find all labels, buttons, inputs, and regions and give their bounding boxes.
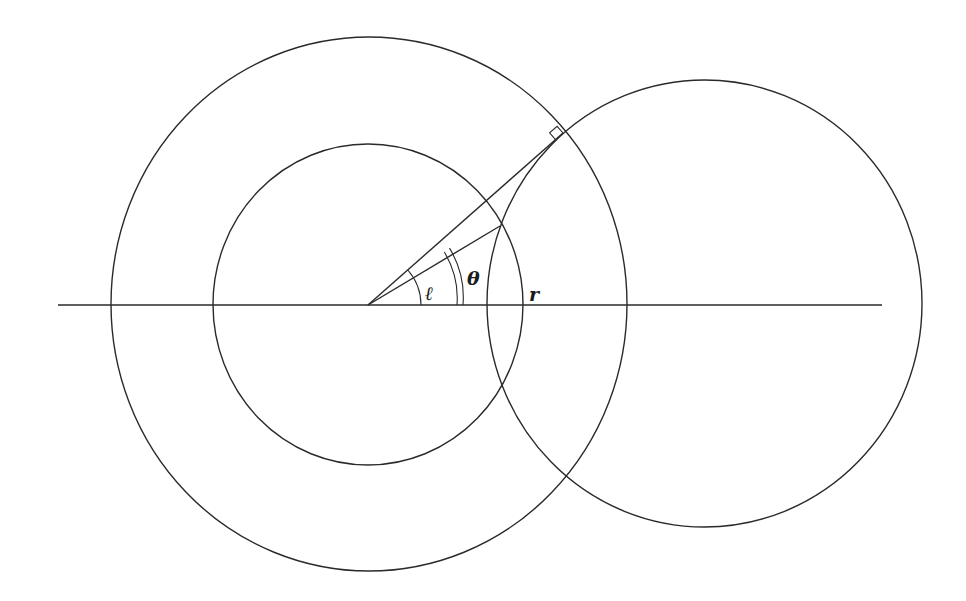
diagram-canvas: ℓ θ r — [0, 0, 966, 601]
right-angle-marker — [550, 126, 563, 139]
tangent-line — [368, 133, 563, 305]
geometry-diagram: ℓ θ r — [0, 0, 966, 601]
label-theta: θ — [467, 267, 480, 289]
right-circle — [487, 80, 922, 527]
label-r: r — [529, 283, 541, 305]
angle-theta-arc-outer — [450, 248, 464, 305]
label-ell: ℓ — [425, 282, 433, 304]
intersection-line — [368, 226, 500, 305]
